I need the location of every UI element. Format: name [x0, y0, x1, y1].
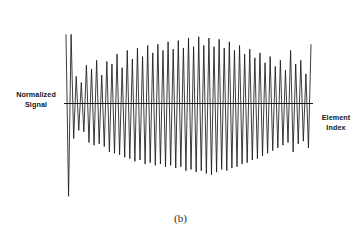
plot-background: [0, 0, 361, 242]
waveform-plot: [0, 0, 361, 242]
figure-page: Normalized Signal Element Index (b): [0, 0, 361, 242]
x-axis-label: Element Index: [314, 113, 358, 132]
figure-caption: (b): [0, 212, 361, 224]
y-axis-label: Normalized Signal: [8, 90, 64, 109]
